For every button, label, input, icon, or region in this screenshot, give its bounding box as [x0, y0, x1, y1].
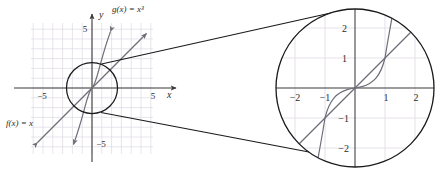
main-ytick-neg5: −5 [96, 139, 106, 149]
main-x-axis-label: x [166, 89, 172, 100]
main-xtick-neg5: −5 [37, 91, 47, 101]
main-plot: −5 5 5 −5 x y g(x) = x³ f(x) = x [6, 4, 176, 162]
figure-container: −5 5 5 −5 x y g(x) = x³ f(x) = x [0, 0, 441, 170]
mag-xtick-pos2: 2 [414, 92, 419, 103]
mag-xtick-pos1: 1 [384, 92, 389, 103]
mag-ytick-neg2: −2 [338, 143, 349, 154]
mag-xtick-neg1: −1 [320, 92, 331, 103]
mag-ytick-neg1: −1 [338, 113, 349, 124]
f-curve-label: f(x) = x [6, 118, 33, 128]
g-curve-label: g(x) = x³ [112, 4, 144, 14]
mag-xtick-neg2: −2 [290, 92, 301, 103]
math-figure-svg: −5 5 5 −5 x y g(x) = x³ f(x) = x [0, 0, 441, 170]
mag-ytick-pos2: 2 [342, 23, 347, 34]
main-y-axis-label: y [98, 9, 104, 20]
magnified-plot: −2 −1 1 2 2 1 −1 −2 [276, 9, 434, 167]
main-ytick-pos5: 5 [83, 24, 88, 34]
mag-ytick-pos1: 1 [342, 53, 347, 64]
magnified-content [276, 9, 434, 167]
main-xtick-pos5: 5 [151, 91, 156, 101]
